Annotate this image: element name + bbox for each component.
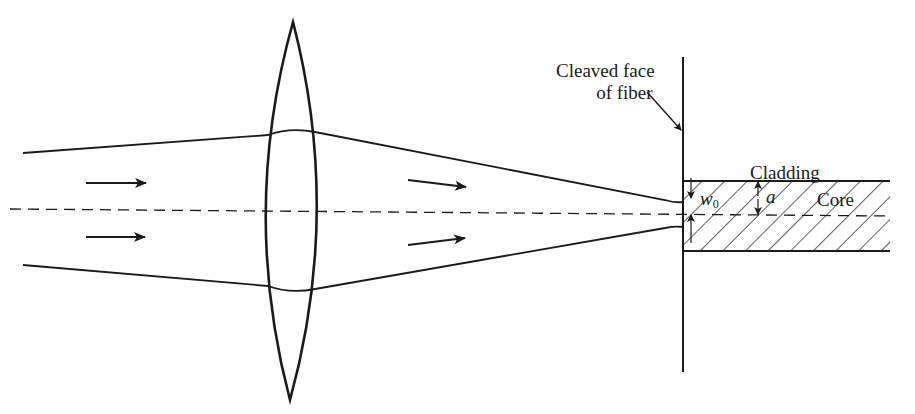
waist-radius-label: w0 (700, 189, 719, 210)
beam-edge-top-converging (315, 132, 683, 202)
beam-edge-bottom-incoming (23, 265, 315, 291)
biconvex-lens (266, 22, 317, 400)
w0-symbol: w (700, 188, 713, 209)
core-radius-label: a (766, 187, 776, 206)
cleaved-face-label-line1: Cleaved face (556, 60, 655, 82)
fiber-coupling-diagram (0, 0, 915, 414)
cleaved-face-label-line2: of fiber (556, 82, 655, 104)
w0-subscript: 0 (713, 197, 719, 211)
direction-arrow-icon (408, 238, 465, 245)
direction-arrow-icon (408, 180, 466, 187)
beam-edge-bottom-converging (315, 227, 683, 289)
cleaved-face-label: Cleaved face of fiber (556, 60, 655, 104)
core-label: Core (817, 190, 854, 209)
cladding-label: Cladding (750, 163, 820, 182)
